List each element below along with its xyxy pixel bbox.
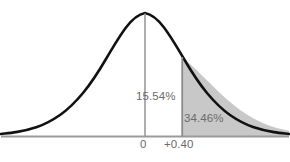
x-axis-tick-label-mean: 0 [140,138,147,150]
x-axis-tick-label-z-score: +0.40 [164,138,194,150]
area-tail-beyond-z-label: 34.46% [184,112,224,124]
normal-distribution-figure: 15.54% 34.46% 0 +0.40 [0,0,290,162]
shaded-tail-region [182,57,289,137]
area-center-to-z-label: 15.54% [136,90,176,102]
